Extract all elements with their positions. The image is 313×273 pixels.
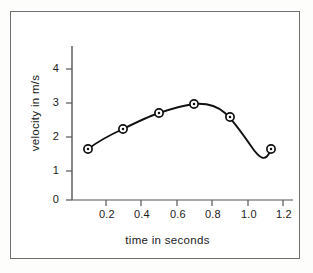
x-axis-label: time in seconds xyxy=(11,234,313,246)
x-tick-label-4: 1.0 xyxy=(236,208,262,220)
figure-canvas: 0 1 2 3 4 0.2 0.4 0.6 0.8 1.0 1.2 time i… xyxy=(0,0,313,273)
x-tick-label-2: 0.6 xyxy=(165,208,191,220)
data-line-velocity xyxy=(88,104,271,158)
x-tick-label-1: 0.4 xyxy=(129,208,155,220)
data-point-3 xyxy=(190,100,198,108)
data-point-2 xyxy=(155,109,163,117)
chart-frame: 0 1 2 3 4 0.2 0.4 0.6 0.8 1.0 1.2 time i… xyxy=(10,11,300,259)
x-tick-label-5: 1.2 xyxy=(271,208,297,220)
y-tick-label-1: 1 xyxy=(41,164,59,176)
y-tick-marks xyxy=(66,69,72,200)
x-tick-marks xyxy=(106,200,283,206)
y-tick-label-0: 0 xyxy=(41,193,59,205)
x-tick-label-0: 0.2 xyxy=(94,208,120,220)
data-point-1 xyxy=(119,125,127,133)
y-tick-label-2: 2 xyxy=(41,130,59,142)
data-markers xyxy=(84,100,275,153)
data-point-5 xyxy=(267,145,275,153)
y-tick-label-4: 4 xyxy=(41,62,59,74)
y-axis-label: velocity in m/s xyxy=(29,53,41,173)
data-point-4 xyxy=(226,113,234,121)
x-tick-label-3: 0.8 xyxy=(200,208,226,220)
data-point-0 xyxy=(84,145,92,153)
y-tick-label-3: 3 xyxy=(41,96,59,108)
